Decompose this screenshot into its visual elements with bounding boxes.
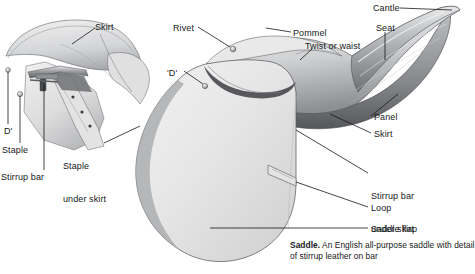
- inset-d-ring-point: [6, 68, 11, 73]
- inset-strap-hole-2: [80, 110, 83, 113]
- label-stirrup-bar-under-skirt-line1: Stirrup bar: [371, 191, 414, 202]
- inset-label-skirt: Skirt: [95, 22, 114, 33]
- label-d-ring-main: 'D': [167, 68, 177, 79]
- inset-label-d-ring: D': [4, 126, 12, 137]
- leader-pommel: [266, 28, 291, 32]
- inset-skirt-shape: [107, 53, 149, 105]
- label-cantle: Cantle: [373, 3, 400, 14]
- inset-staple-point: [17, 91, 22, 96]
- inset-strap-hole-3: [88, 124, 91, 127]
- label-skirt-main: Skirt: [374, 129, 393, 140]
- label-rivet: Rivet: [173, 23, 194, 34]
- inset-strap-hole-1: [71, 95, 74, 98]
- rivet-point: [230, 46, 236, 52]
- label-seat: Seat: [376, 23, 395, 34]
- d-ring-point-main: [202, 83, 207, 88]
- label-loop: Loop: [371, 203, 391, 214]
- label-staple-under-skirt: Staple under skirt: [63, 139, 106, 227]
- caption-lead: Saddle.: [290, 240, 320, 250]
- leader-staple-under-skirt: [104, 126, 140, 143]
- leader-stirrup-bar-under: [296, 130, 368, 173]
- inset-label-staple: Staple: [2, 145, 28, 156]
- label-panel: Panel: [374, 112, 398, 123]
- figure-caption: Saddle. An English all-purpose saddle wi…: [290, 240, 475, 261]
- inset-bar-catch: [36, 74, 58, 79]
- label-staple-under-skirt-line1: Staple: [63, 161, 106, 172]
- leader-rivet: [198, 27, 230, 47]
- label-pommel: Pommel: [293, 28, 327, 39]
- inset-label-stirrup-bar: Stirrup bar: [1, 172, 44, 183]
- inset-illustration: [6, 20, 150, 150]
- label-staple-under-skirt-line2: under skirt: [63, 194, 106, 205]
- leader-loop: [296, 182, 368, 207]
- saddle-diagram-figure: Skirt D' Staple Stirrup bar Rivet Pommel…: [0, 0, 475, 274]
- label-saddle-flap: Saddle flap: [371, 224, 417, 235]
- label-twist-or-waist: Twist or waist: [305, 41, 360, 52]
